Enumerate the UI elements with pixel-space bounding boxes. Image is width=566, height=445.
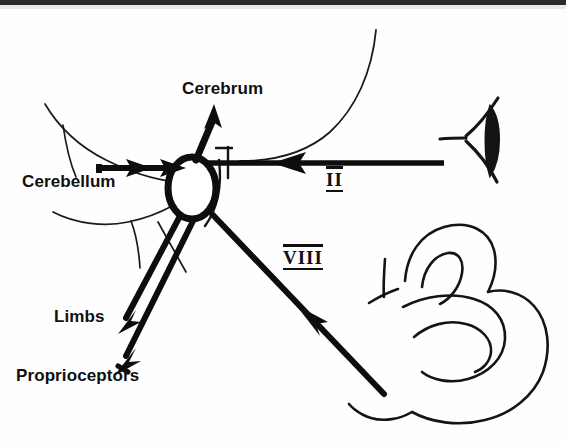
figure-root: Cerebrum Cerebellum Limbs Proprioceptors… (0, 0, 566, 445)
roman-underline-viii (283, 268, 323, 271)
label-cerebrum: Cerebrum (182, 80, 263, 97)
vestibulocochlear-nerve-pathway (212, 214, 384, 394)
label-proprioceptors: Proprioceptors (16, 367, 139, 384)
roman-glyph-ii: II (326, 170, 343, 189)
label-cerebellum: Cerebellum (22, 173, 116, 190)
cerebrum-pathway (196, 104, 222, 160)
ear-outline-icon (349, 225, 548, 423)
roman-glyph-viii: VIII (283, 248, 323, 267)
label-limbs: Limbs (54, 308, 105, 325)
label-cranial-nerve-viii: VIII (283, 244, 323, 270)
eye-outline-icon (440, 98, 499, 182)
label-cranial-nerve-ii: II (326, 166, 343, 192)
roman-underline-ii (326, 190, 343, 193)
proprioceptors-pathway (114, 219, 194, 376)
